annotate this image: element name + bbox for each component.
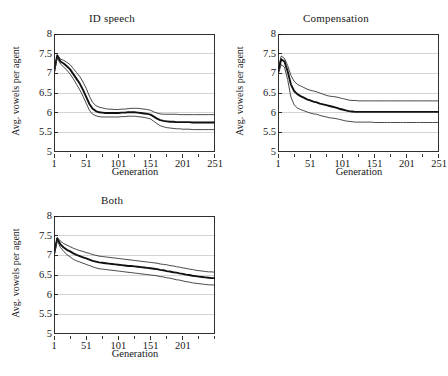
y-axis-label: Avg. vowels per agent	[234, 32, 245, 150]
panel-title: Both	[0, 194, 224, 206]
y-tick-label: 7.5	[39, 230, 52, 241]
y-tick-label: 5.5	[263, 127, 276, 138]
y-tick-label: 7.5	[263, 48, 276, 59]
x-axis-label: Generation	[278, 166, 440, 177]
y-tick-label: 5	[271, 147, 276, 158]
chart-panel-both: Both Avg. vowels per agent 55.566.577.58…	[0, 190, 224, 376]
y-tick-label: 6	[271, 107, 276, 118]
y-tick-label: 5.5	[39, 309, 52, 320]
plot-area	[54, 34, 215, 152]
y-tick-label: 6	[47, 289, 52, 300]
y-tick-label: 7.5	[39, 48, 52, 59]
y-tick-label: 6.5	[263, 88, 276, 99]
y-tick-label: 7	[47, 68, 52, 79]
y-axis-label: Avg. vowels per agent	[10, 32, 21, 150]
y-tick-label: 8	[47, 29, 52, 40]
y-tick-label: 7	[47, 250, 52, 261]
x-axis-label: Generation	[54, 166, 216, 177]
y-axis-ticks: 55.566.577.58	[26, 34, 52, 152]
plot-canvas	[54, 216, 215, 334]
y-tick-label: 6.5	[39, 270, 52, 281]
plot-area	[54, 216, 215, 334]
y-tick-label: 8	[47, 211, 52, 222]
plot-area	[278, 34, 439, 152]
panel-title: Compensation	[224, 12, 448, 24]
y-tick-label: 5	[47, 329, 52, 340]
y-tick-label: 6	[47, 107, 52, 118]
panel-title: ID speech	[0, 12, 224, 24]
chart-panel-id-speech: ID speech Avg. vowels per agent 55.566.5…	[0, 2, 224, 190]
y-tick-label: 5.5	[39, 127, 52, 138]
y-axis-ticks: 55.566.577.58	[26, 216, 52, 334]
plot-canvas	[54, 34, 215, 152]
y-axis-label: Avg. vowels per agent	[10, 214, 21, 332]
y-tick-label: 7	[271, 68, 276, 79]
y-axis-ticks: 55.566.577.58	[250, 34, 276, 152]
y-tick-label: 8	[271, 29, 276, 40]
y-tick-label: 5	[47, 147, 52, 158]
y-tick-label: 6.5	[39, 88, 52, 99]
x-axis-label: Generation	[54, 348, 216, 359]
plot-canvas	[278, 34, 439, 152]
chart-panel-compensation: Compensation Avg. vowels per agent 55.56…	[224, 2, 448, 190]
